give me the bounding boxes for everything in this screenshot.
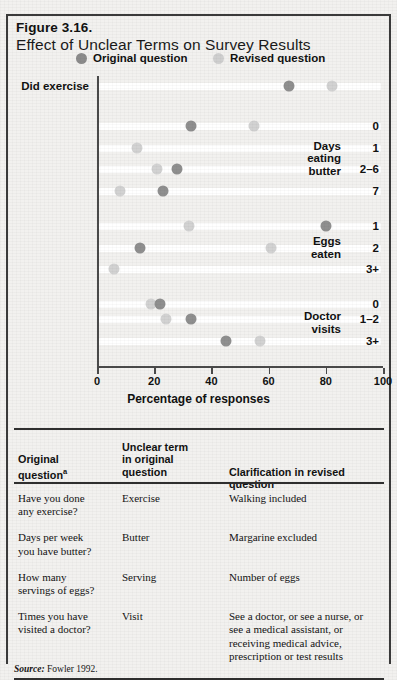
x-axis-line [97, 366, 383, 368]
data-point-revised [255, 336, 266, 347]
table-cell-clarification: Number of eggs [229, 571, 300, 584]
filled-circle-dark-icon [76, 53, 87, 64]
data-point-revised [109, 264, 120, 275]
table-cell-line: visited a doctor? [18, 623, 91, 636]
row-group-label: Doctorvisits [271, 310, 341, 335]
table-cell-line: How many [18, 571, 94, 584]
table-header-line: Clarification in revised question [229, 466, 384, 491]
row-label: Did exercise [21, 80, 89, 92]
row-label: 0 [339, 298, 379, 310]
row-label: 2 [339, 242, 379, 254]
table-header-line: in original [122, 453, 188, 465]
data-point-original [186, 121, 197, 132]
x-tick-label: 80 [320, 375, 332, 387]
data-point-original [154, 299, 165, 310]
legend-item-original: Original question [76, 52, 188, 64]
row-group-label-line: visits [271, 323, 341, 336]
table-cell-unclear-term: Exercise [122, 492, 160, 505]
table-cell-original-question: How manyservings of eggs? [18, 571, 94, 597]
table-cell-line: Margarine excluded [229, 531, 317, 544]
table-header-line: Original [18, 453, 67, 465]
table-cell-line: Times you have [18, 610, 91, 623]
table-cell-clarification: Margarine excluded [229, 531, 317, 544]
table-header-cell: Clarification in revised question [229, 466, 384, 491]
scatter-plot: 020406080100 Did exercise012–67123+01–23… [0, 74, 397, 374]
figure-number: Figure 3.16. [16, 20, 92, 35]
x-tick [154, 368, 156, 374]
data-point-revised [152, 164, 163, 175]
row-label: 2–6 [339, 163, 379, 175]
row-label: 0 [339, 120, 379, 132]
data-point-original [134, 243, 145, 254]
data-point-original [157, 186, 168, 197]
legend-label-revised: Revised question [230, 52, 325, 64]
row-group-label-line: eating [271, 152, 341, 165]
x-tick-label: 100 [374, 375, 392, 387]
x-tick [97, 368, 99, 374]
table-cell-line: servings of eggs? [18, 584, 94, 597]
x-tick-label: 20 [148, 375, 160, 387]
data-point-original [186, 314, 197, 325]
x-tick [383, 368, 385, 374]
row-band [99, 83, 381, 90]
x-tick [326, 368, 328, 374]
source-note: Source: Fowler 1992. [14, 664, 98, 674]
figure-page: Figure 3.16. Effect of Unclear Terms on … [0, 0, 397, 680]
table-header-cell: Originalquestiona [18, 453, 67, 480]
filled-circle-light-icon [213, 53, 224, 64]
x-tick-label: 0 [94, 375, 100, 387]
table-cell-clarification: Walking included [229, 492, 307, 505]
x-tick [269, 368, 271, 374]
table-header-line: question [122, 466, 188, 478]
legend-label-original: Original question [93, 52, 188, 64]
table-cell-line: you have butter? [18, 545, 91, 558]
row-group-label-line: eaten [271, 248, 341, 261]
table-header-line: Unclear term [122, 441, 188, 453]
table-cell-original-question: Times you havevisited a doctor? [18, 610, 91, 636]
table-header-cell: Unclear termin originalquestion [122, 441, 188, 478]
table-cell-unclear-term: Butter [122, 531, 150, 544]
table-header-line: questiona [18, 466, 67, 481]
x-tick [211, 368, 213, 374]
row-group-label: Dayseatingbutter [271, 140, 341, 178]
table-cell-line: Number of eggs [229, 571, 300, 584]
data-point-original [172, 164, 183, 175]
x-tick-label: 60 [262, 375, 274, 387]
data-point-original [220, 336, 231, 347]
table-cell-unclear-term: Visit [122, 610, 143, 623]
row-group-label-line: butter [271, 165, 341, 178]
table-header-superscript: a [63, 467, 67, 476]
x-tick-label: 40 [205, 375, 217, 387]
table-rule [14, 678, 384, 680]
row-group-label-line: Days [271, 140, 341, 153]
row-label: 1 [339, 142, 379, 154]
table-cell-original-question: Have you doneany exercise? [18, 492, 85, 518]
table-cell-unclear-term: Serving [122, 571, 156, 584]
table-cell-line: see a medical assistant, or [229, 623, 363, 636]
row-label: 1 [339, 220, 379, 232]
legend-item-revised: Revised question [213, 52, 325, 64]
row-label: 1–2 [339, 313, 379, 325]
data-point-original [283, 81, 294, 92]
table-cell-original-question: Days per weekyou have butter? [18, 531, 91, 557]
data-point-revised [249, 121, 260, 132]
row-group-label-line: Doctor [271, 310, 341, 323]
table-cell-line: receiving medical advice, [229, 637, 363, 650]
source-prefix: Source: [14, 664, 45, 674]
y-axis-line [97, 76, 99, 366]
table-cell-line: Have you done [18, 492, 85, 505]
figure-top-rule [6, 14, 391, 16]
table-rule [14, 428, 384, 430]
data-point-revised [183, 221, 194, 232]
data-point-revised [132, 143, 143, 154]
table-cell-line: any exercise? [18, 505, 85, 518]
data-point-revised [326, 81, 337, 92]
data-point-revised [114, 186, 125, 197]
table-cell-line: Days per week [18, 531, 91, 544]
table-cell-clarification: See a doctor, or see a nurse, orsee a me… [229, 610, 363, 663]
row-label: 3+ [339, 263, 379, 275]
row-group-label: Eggseaten [271, 235, 341, 260]
source-text: Fowler 1992. [47, 664, 98, 674]
data-point-original [320, 221, 331, 232]
table-rule [14, 482, 384, 484]
